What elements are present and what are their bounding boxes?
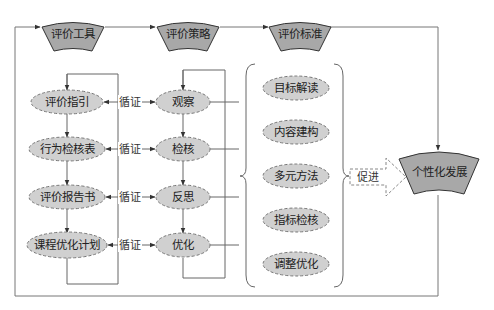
- standard-node-4: 指标检核: [263, 208, 329, 232]
- strategy-node-4: 优化: [156, 233, 210, 257]
- evidence-link-1: 循证: [104, 95, 155, 109]
- svg-text:循证: 循证: [119, 143, 141, 156]
- svg-text:循证: 循证: [119, 96, 141, 109]
- tools-node-2: 行为检核表: [29, 137, 105, 161]
- svg-text:循证: 循证: [119, 191, 141, 204]
- svg-text:内容建构: 内容建构: [274, 125, 318, 139]
- svg-text:个性化发展: 个性化发展: [412, 165, 468, 179]
- tools-node-1: 评价指引: [31, 90, 103, 114]
- svg-text:评价标准: 评价标准: [278, 27, 322, 41]
- svg-text:指标检核: 指标检核: [274, 213, 319, 227]
- svg-text:多元方法: 多元方法: [274, 169, 318, 183]
- svg-text:循证: 循证: [119, 239, 141, 252]
- header-tools: 评价工具: [42, 23, 104, 52]
- svg-text:调整优化: 调整优化: [274, 257, 319, 271]
- svg-text:评价报告书: 评价报告书: [40, 190, 95, 204]
- strategy-node-3: 反思: [156, 185, 210, 209]
- promote-arrow: 促进: [350, 158, 406, 196]
- standard-node-5: 调整优化: [263, 252, 329, 276]
- svg-text:评价指引: 评价指引: [45, 95, 89, 109]
- svg-text:评价策略: 评价策略: [166, 27, 211, 41]
- strategy-node-2: 检核: [156, 137, 210, 161]
- evidence-link-3: 循证: [106, 190, 155, 204]
- left-brace: [240, 64, 255, 287]
- standard-node-2: 内容建构: [263, 120, 329, 144]
- svg-text:行为检核表: 行为检核表: [40, 142, 96, 156]
- evidence-link-2: 循证: [106, 142, 155, 156]
- svg-text:课程优化计划: 课程优化计划: [34, 238, 100, 252]
- header-standard: 评价标准: [269, 23, 331, 52]
- standard-node-3: 多元方法: [263, 164, 329, 188]
- diagram-canvas: 评价工具 评价策略 评价标准 评价指引 行为检核表: [0, 0, 494, 310]
- svg-text:检核: 检核: [172, 142, 195, 156]
- svg-text:反思: 反思: [172, 190, 194, 204]
- svg-text:评价工具: 评价工具: [51, 27, 96, 41]
- tools-node-3: 评价报告书: [29, 185, 105, 209]
- tools-node-4: 课程优化计划: [27, 232, 107, 258]
- svg-text:观察: 观察: [172, 95, 195, 109]
- standard-node-1: 目标解读: [263, 76, 329, 100]
- strategy-node-1: 观察: [156, 90, 210, 114]
- svg-text:优化: 优化: [172, 238, 195, 252]
- evidence-link-4: 循证: [108, 238, 155, 252]
- svg-text:目标解读: 目标解读: [274, 81, 319, 95]
- right-brace: [334, 64, 349, 287]
- header-strategy: 评价策略: [157, 23, 219, 52]
- svg-text:促进: 促进: [357, 170, 379, 184]
- outcome-personalized-development: 个性化发展: [399, 152, 479, 194]
